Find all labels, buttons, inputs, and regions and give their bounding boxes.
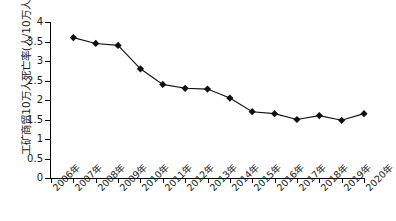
data-point-marker bbox=[360, 110, 367, 117]
data-point-marker bbox=[204, 85, 211, 92]
data-point-marker bbox=[271, 110, 278, 117]
series-markers bbox=[70, 34, 368, 124]
data-point-marker bbox=[338, 117, 345, 124]
data-point-marker bbox=[293, 116, 300, 123]
data-point-marker bbox=[70, 34, 77, 41]
data-point-marker bbox=[316, 112, 323, 119]
series-line bbox=[73, 38, 364, 121]
data-point-marker bbox=[249, 108, 256, 115]
data-point-marker bbox=[226, 94, 233, 101]
data-point-marker bbox=[92, 40, 99, 47]
data-point-marker bbox=[159, 81, 166, 88]
data-point-marker bbox=[182, 85, 189, 92]
